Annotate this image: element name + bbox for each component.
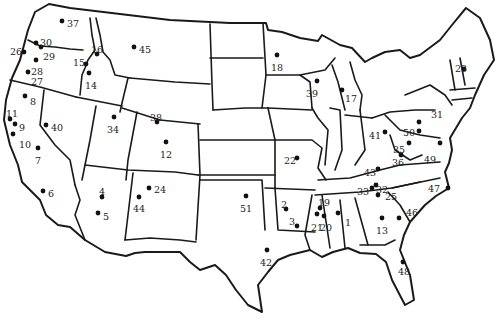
site-label: 48 — [398, 266, 410, 277]
site-dot-icon — [407, 141, 412, 146]
site-marker: 32 — [374, 183, 388, 195]
site-dot-icon — [397, 216, 402, 221]
site-dot-icon — [34, 58, 39, 63]
site-label: 21 — [311, 222, 323, 233]
site-dot-icon — [11, 132, 16, 137]
site-label: 24 — [154, 184, 166, 195]
site-label: 28 — [31, 66, 43, 77]
site-label: 23 — [455, 63, 467, 74]
site-label: 35 — [393, 144, 405, 155]
site-label: 27 — [31, 76, 43, 87]
site-label: 6 — [48, 188, 54, 199]
site-marker: 7 — [35, 146, 41, 166]
site-label: 40 — [51, 122, 63, 133]
site-label: 2 — [281, 199, 287, 210]
site-dot-icon — [244, 194, 249, 199]
site-label: 4 — [99, 186, 105, 197]
site-label: 12 — [160, 149, 172, 160]
site-label: 29 — [43, 51, 55, 62]
site-dot-icon — [96, 211, 101, 216]
site-label: 43 — [364, 167, 376, 178]
site-label: 31 — [431, 109, 443, 120]
site-dot-icon — [147, 186, 152, 191]
site-label: 44 — [133, 203, 145, 214]
site-label: 26 — [10, 46, 22, 57]
site-label: 46 — [406, 207, 418, 218]
site-label: 18 — [271, 62, 283, 73]
site-dot-icon — [265, 248, 270, 253]
site-label: 45 — [139, 44, 151, 55]
site-dot-icon — [41, 189, 46, 194]
site-dot-icon — [87, 71, 92, 76]
site-label: 8 — [30, 96, 36, 107]
site-label: 16 — [91, 44, 103, 55]
site-label: 36 — [392, 157, 404, 168]
site-label: 17 — [345, 93, 357, 104]
site-label: 51 — [240, 203, 252, 214]
site-label: 42 — [260, 257, 272, 268]
site-dot-icon — [401, 260, 406, 265]
site-dot-icon — [275, 53, 280, 58]
site-label: 38 — [150, 112, 162, 123]
site-label: 50 — [403, 127, 415, 138]
site-label: 39 — [306, 88, 318, 99]
site-label: 33 — [357, 186, 369, 197]
site-dot-icon — [60, 19, 65, 24]
site-dot-icon — [438, 141, 443, 146]
site-label: 30 — [40, 37, 52, 48]
site-dot-icon — [315, 79, 320, 84]
site-dot-icon — [383, 130, 388, 135]
site-label: 37 — [67, 18, 79, 29]
site-label: 41 — [369, 130, 381, 141]
site-dot-icon — [34, 41, 39, 46]
site-dot-icon — [132, 45, 137, 50]
site-marker: 4 — [99, 186, 105, 199]
site-dot-icon — [417, 120, 422, 125]
site-label: 47 — [428, 183, 440, 194]
site-dot-icon — [23, 94, 28, 99]
site-label: 7 — [35, 155, 41, 166]
site-dot-icon — [417, 129, 422, 134]
site-label: 3 — [289, 216, 295, 227]
site-dot-icon — [340, 88, 345, 93]
site-dot-icon — [44, 123, 49, 128]
site-label: 1 — [345, 217, 351, 228]
site-dot-icon — [22, 50, 27, 55]
site-label: 5 — [103, 211, 109, 222]
site-dot-icon — [315, 212, 320, 217]
site-label: 9 — [19, 122, 25, 133]
site-marker: 38 — [150, 112, 162, 124]
site-label: 22 — [284, 155, 296, 166]
site-dot-icon — [13, 122, 18, 127]
site-dot-icon — [370, 186, 375, 191]
site-marker: 23 — [455, 63, 467, 74]
site-label: 15 — [73, 57, 85, 68]
site-dot-icon — [36, 146, 41, 151]
site-dot-icon — [380, 216, 385, 221]
site-dot-icon — [336, 211, 341, 216]
site-dot-icon — [446, 186, 451, 191]
site-dot-icon — [164, 140, 169, 145]
site-dot-icon — [376, 167, 381, 172]
site-label: 19 — [318, 197, 330, 208]
us-map: 1234567891011121314151617181920212223242… — [0, 0, 504, 336]
site-dot-icon — [137, 195, 142, 200]
site-dot-icon — [322, 214, 327, 219]
site-dot-icon — [26, 70, 31, 75]
site-label: 10 — [19, 139, 31, 150]
site-label: 14 — [85, 80, 97, 91]
site-label: 49 — [424, 154, 436, 165]
site-label: 32 — [376, 184, 388, 195]
site-label: 11 — [6, 108, 18, 119]
site-label: 34 — [107, 124, 119, 135]
site-dot-icon — [112, 115, 117, 120]
site-marker: 16 — [91, 44, 103, 56]
site-label: 13 — [376, 225, 388, 236]
site-dot-icon — [295, 224, 300, 229]
